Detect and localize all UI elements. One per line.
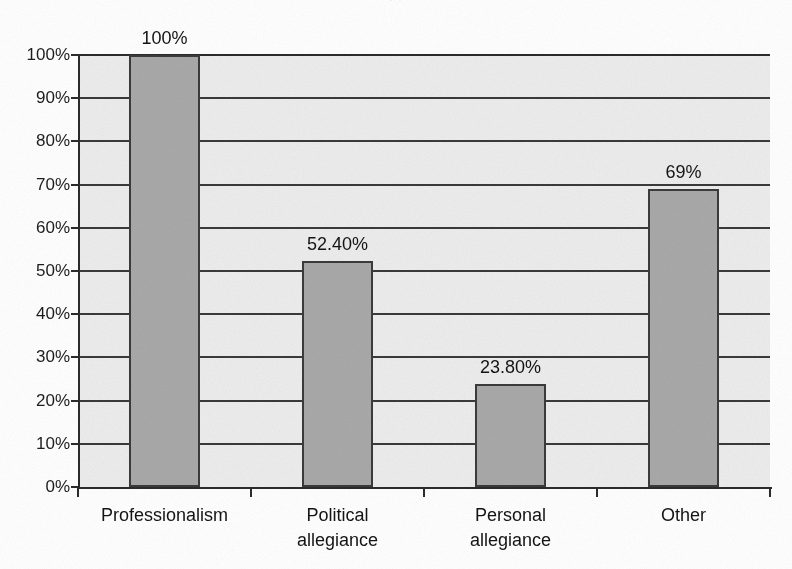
y-tick-label-10: 10% xyxy=(2,435,70,452)
bar-value-label: 69% xyxy=(624,163,744,181)
y-tick-mark-80 xyxy=(71,140,79,142)
bar-value-label: 23.80% xyxy=(451,358,571,376)
bar xyxy=(302,261,373,487)
bar xyxy=(475,384,546,487)
y-tick-mark-50 xyxy=(71,270,79,272)
cropped-title-remnant: · · xyxy=(0,0,792,2)
y-tick-mark-20 xyxy=(71,400,79,402)
bar xyxy=(129,55,200,487)
y-tick-label-70: 70% xyxy=(2,176,70,193)
x-category-label: Other xyxy=(594,503,774,528)
y-tick-label-0: 0% xyxy=(2,478,70,495)
x-category-label: Personal allegiance xyxy=(421,503,601,553)
x-tick-mark xyxy=(423,488,425,497)
y-tick-mark-10 xyxy=(71,443,79,445)
bar-chart: 0%10%20%30%40%50%60%70%80%90%100% 100%52… xyxy=(0,0,792,569)
bar xyxy=(648,189,719,487)
x-axis-line xyxy=(78,487,772,489)
y-tick-mark-90 xyxy=(71,97,79,99)
plot-area xyxy=(78,55,770,487)
y-tick-label-50: 50% xyxy=(2,262,70,279)
y-tick-mark-70 xyxy=(71,184,79,186)
y-tick-mark-40 xyxy=(71,313,79,315)
y-tick-mark-100 xyxy=(71,54,79,56)
y-tick-label-30: 30% xyxy=(2,348,70,365)
y-tick-label-100: 100% xyxy=(2,46,70,63)
x-tick-mark xyxy=(77,488,79,497)
y-tick-label-60: 60% xyxy=(2,219,70,236)
y-tick-label-80: 80% xyxy=(2,132,70,149)
x-category-label: Professionalism xyxy=(75,503,255,528)
bar-value-label: 100% xyxy=(105,29,225,47)
y-tick-label-40: 40% xyxy=(2,305,70,322)
x-tick-mark xyxy=(250,488,252,497)
y-tick-mark-60 xyxy=(71,227,79,229)
bar-value-label: 52.40% xyxy=(278,235,398,253)
y-tick-label-20: 20% xyxy=(2,392,70,409)
x-tick-mark xyxy=(769,488,771,497)
y-tick-mark-30 xyxy=(71,356,79,358)
y-tick-label-90: 90% xyxy=(2,89,70,106)
x-tick-mark xyxy=(596,488,598,497)
x-category-label: Political allegiance xyxy=(248,503,428,553)
